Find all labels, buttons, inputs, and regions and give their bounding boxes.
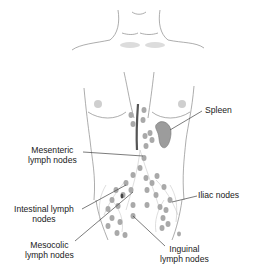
dark-node	[121, 194, 124, 199]
label-mesocolic-lymph-nodes: Mesocolic lymph nodes	[25, 241, 74, 260]
label-inguinal-lymph-nodes: Inguinal lymph nodes	[160, 245, 209, 264]
aorta-vessel	[137, 104, 138, 150]
lymph-node-diagram	[0, 0, 258, 278]
label-mesenteric-lymph-nodes: Mesenteric lymph nodes	[28, 146, 77, 165]
nipples	[94, 100, 186, 108]
label-iliac-nodes: Iliac nodes	[198, 191, 239, 201]
spleen-organ	[156, 122, 171, 148]
label-intestinal-lymph-nodes: Intestinal lymph nodes	[14, 205, 74, 224]
clavicle-shading	[120, 42, 165, 48]
label-spleen: Spleen	[205, 106, 232, 116]
